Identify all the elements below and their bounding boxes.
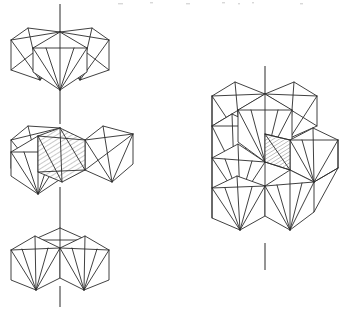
- octahedron-bottom-left: [11, 236, 60, 290]
- polyhedral-diagram-svg: [0, 0, 348, 311]
- scan-artifacts: [118, 2, 303, 4]
- figure-root: Octahedral cluster linkage diagram Two p…: [0, 0, 348, 311]
- hatched-face-middle: [38, 128, 85, 182]
- cluster-top: [11, 28, 109, 90]
- cluster-bottom: [11, 228, 109, 290]
- octahedron-middle-right: [85, 126, 133, 182]
- panel-exploded-view: [11, 4, 133, 307]
- panel-assembled-view: [212, 66, 338, 270]
- hatched-face-assembled: [265, 134, 290, 170]
- octahedron-right-bottom-right: [265, 170, 314, 230]
- octahedron-bottom-right: [60, 236, 109, 290]
- cluster-middle: [11, 126, 133, 194]
- octahedron-right-bottom-left: [212, 176, 265, 230]
